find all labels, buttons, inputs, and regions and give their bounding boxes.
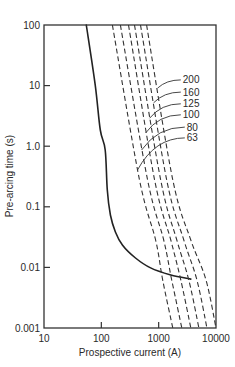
y-tick-label: 0.01 <box>21 262 41 273</box>
axis-ticks <box>44 86 159 328</box>
curve-label-160: 160 <box>183 87 200 98</box>
x-tick-label: 10 <box>38 333 50 344</box>
curve-label-80: 80 <box>187 122 199 133</box>
y-tick-label: 10 <box>29 80 41 91</box>
leader-line-63 <box>138 138 185 170</box>
dashed-curve-125 <box>135 25 199 328</box>
curve-label-200: 200 <box>183 74 200 85</box>
y-tick-label: 0.1 <box>26 201 40 212</box>
dashed-curve-63 <box>112 25 172 328</box>
leader-line-160 <box>154 92 181 103</box>
y-tick-label: 0.001 <box>15 323 40 334</box>
y-tick-label: 100 <box>23 20 40 31</box>
x-tick-label: 10000 <box>202 333 230 344</box>
y-tick-label: 1.0 <box>26 141 40 152</box>
plot-frame <box>44 25 216 328</box>
axis-tick-labels: 10100100010000100101.00.10.010.001 <box>15 20 230 345</box>
leader-line-200 <box>158 80 181 88</box>
dashed-curve-160 <box>141 25 207 328</box>
curve-label-125: 125 <box>183 98 200 109</box>
plot-lines <box>86 25 216 328</box>
solid-curve <box>86 25 191 279</box>
y-axis-title: Pre-arcing time (s) <box>4 135 15 217</box>
x-axis-title: Prospective current (A) <box>79 347 181 358</box>
dashed-curve-200 <box>147 25 216 328</box>
curve-label-100: 100 <box>183 109 200 120</box>
curve-label-63: 63 <box>187 132 199 143</box>
fuse-time-current-chart: 10100100010000100101.00.10.010.001 63801… <box>0 0 235 367</box>
x-tick-label: 100 <box>93 333 110 344</box>
x-tick-label: 1000 <box>148 333 171 344</box>
